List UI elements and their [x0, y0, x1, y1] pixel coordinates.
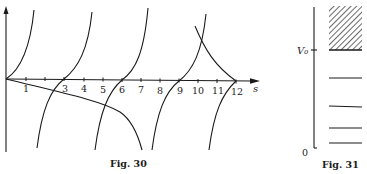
tick-label: 4	[81, 83, 87, 94]
fig31-diagram	[311, 6, 362, 148]
tick-label: 3	[62, 83, 68, 94]
v0-label: V₀	[297, 45, 308, 56]
x-axis-label: s	[253, 83, 258, 94]
x-axis	[6, 79, 252, 81]
tick-label: 11	[212, 85, 224, 96]
tick-label: 1	[23, 83, 29, 94]
tick-label: 5	[100, 84, 106, 95]
tan-branch-1	[6, 10, 34, 79]
tick-label: 7	[138, 84, 144, 95]
figure-caption: Fig. 30	[110, 158, 147, 169]
y-axis-arrow-icon	[4, 6, 9, 14]
tick-label: 10	[192, 85, 204, 96]
tick-label: 8	[157, 85, 163, 96]
energy-level	[329, 106, 362, 107]
tick-label: 6	[119, 84, 125, 95]
figure-canvas: 1 3 4 5 6 7 8 9 10 11 12 s Fig. 30 V₀ 0 …	[0, 0, 367, 174]
continuum-hatched-region	[329, 6, 362, 50]
figure-caption: Fig. 31	[322, 159, 359, 170]
tick-label: 9	[177, 85, 183, 96]
tick-label: 12	[231, 86, 243, 97]
decreasing-curve-2	[195, 26, 236, 81]
fig30-plot	[4, 6, 261, 152]
zero-label: 0	[302, 147, 308, 158]
